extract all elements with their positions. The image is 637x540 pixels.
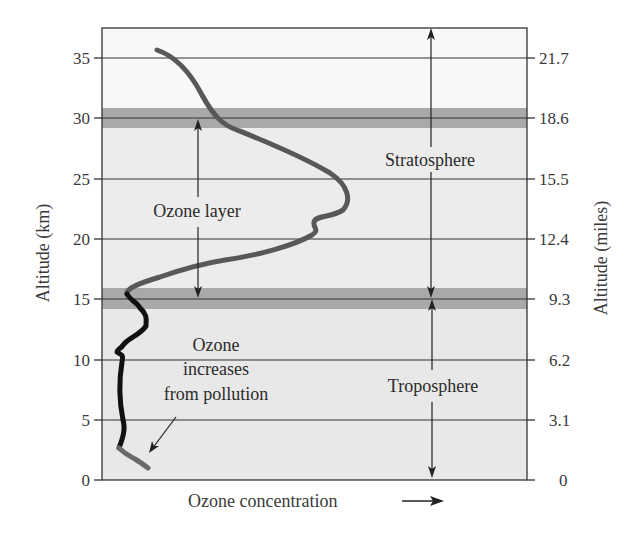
- left-tick-labels: 35 30 25 20 15 10 5 0: [73, 49, 90, 490]
- right-tick-21-7: 21.7: [539, 49, 569, 68]
- ozone-layer-label: Ozone layer: [153, 201, 240, 221]
- right-tick-18-6: 18.6: [539, 109, 569, 128]
- left-axis-title: Altitude (km): [33, 204, 54, 302]
- x-axis-title: Ozone concentration: [188, 491, 337, 511]
- right-tick-9-3: 9.3: [549, 290, 570, 309]
- right-tick-6-2: 6.2: [549, 351, 570, 370]
- pollution-label-line1: Ozone: [193, 335, 240, 355]
- right-tick-15-5: 15.5: [539, 170, 569, 189]
- left-tick-0: 0: [82, 471, 91, 490]
- left-tick-5: 5: [82, 411, 91, 430]
- right-ticks: [527, 58, 535, 480]
- right-tick-3-1: 3.1: [549, 411, 570, 430]
- left-tick-25: 25: [73, 170, 90, 189]
- right-axis-title: Altitude (miles): [591, 201, 612, 315]
- stratosphere-label: Stratosphere: [385, 150, 475, 170]
- right-tick-12-4: 12.4: [539, 230, 569, 249]
- pollution-label-line2: increases: [183, 359, 249, 379]
- ozone-altitude-chart: 35 30 25 20 15 10 5 0 21.7 18.6 15.5 12.…: [0, 0, 637, 540]
- right-tick-labels: 21.7 18.6 15.5 12.4 9.3 6.2 3.1 0: [539, 49, 570, 490]
- left-tick-10: 10: [73, 351, 90, 370]
- left-tick-20: 20: [73, 230, 90, 249]
- pollution-label-line3: from pollution: [164, 384, 269, 404]
- troposphere-label: Troposphere: [388, 376, 478, 396]
- x-axis-arrow-icon: [402, 496, 444, 506]
- right-tick-0: 0: [559, 471, 568, 490]
- upper-stratosphere-bg: [102, 28, 527, 108]
- left-ticks: [94, 58, 102, 480]
- left-tick-15: 15: [73, 290, 90, 309]
- left-tick-35: 35: [73, 49, 90, 68]
- left-tick-30: 30: [73, 109, 90, 128]
